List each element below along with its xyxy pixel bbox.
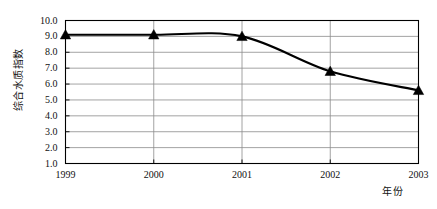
y-tick-label: 5.0 [24,95,58,105]
y-tick-label: 4.0 [24,111,58,121]
water-quality-index-chart: 综合水质指数 年份 10.09.08.07.06.05.04.03.02.01.… [0,0,437,209]
x-tick-label: 2000 [132,170,176,180]
y-tick-label: 1.0 [24,159,58,169]
y-tick-label: 9.0 [24,31,58,41]
x-tick-label: 2001 [220,170,264,180]
y-tick-label: 10.0 [24,16,58,26]
y-tick-label: 3.0 [24,127,58,137]
x-tick-label: 2003 [397,170,437,180]
y-tick-label: 2.0 [24,143,58,153]
x-tick-label: 1999 [44,170,88,180]
x-tick-label: 2002 [308,170,352,180]
y-tick-label: 6.0 [24,79,58,89]
y-tick-label: 7.0 [24,63,58,73]
y-tick-label: 8.0 [24,47,58,57]
